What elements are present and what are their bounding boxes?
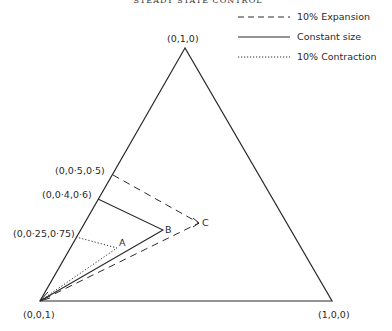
contraction-path	[40, 237, 117, 301]
arrow-c-icon	[193, 218, 199, 227]
edge-label-p40: (0,0·4,0·6)	[42, 190, 92, 200]
vertex-label-bottom-left: (0,0,1)	[23, 310, 55, 320]
point-label-a: A	[119, 238, 126, 248]
edge-label-p50: (0,0·5,0·5)	[55, 166, 105, 176]
point-label-b: B	[165, 225, 172, 235]
edge-label-p25: (0,0·25,0·75)	[13, 229, 75, 239]
legend-label-contraction: 10% Contraction	[297, 52, 376, 62]
legend-label-expansion: 10% Expansion	[297, 12, 370, 22]
point-label-c: C	[202, 218, 209, 228]
vertex-label-bottom-right: (1,0,0)	[318, 310, 350, 320]
vertex-label-top: (0,1,0)	[167, 34, 199, 44]
legend-label-constant: Constant size	[297, 32, 361, 42]
